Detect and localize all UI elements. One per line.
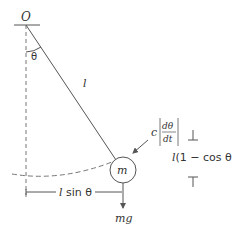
angle-label: θ [31, 51, 37, 62]
swing-path-dashed [12, 162, 112, 176]
hdim-rest: sin θ [63, 186, 93, 199]
gravity-label: mg [115, 212, 132, 225]
pendulum-rod [26, 25, 116, 160]
damping-numerator: dθ [162, 121, 174, 131]
mass-label: m [117, 164, 127, 177]
horizontal-dimension-label: l sin θ [59, 186, 92, 199]
vertical-dimension-label: l(1 − cos θ) [172, 151, 232, 164]
damping-denominator: dt [163, 134, 173, 144]
damping-force-arrow [133, 140, 148, 153]
vdim-rest: (1 − cos θ) [176, 151, 232, 164]
damping-coefficient-label: c [151, 126, 157, 139]
pendulum-diagram: O θ l m c dθ dt mg l sin θ l(1 − cos θ) [0, 0, 232, 227]
pivot-label: O [21, 10, 31, 24]
rod-length-label: l [83, 77, 87, 90]
